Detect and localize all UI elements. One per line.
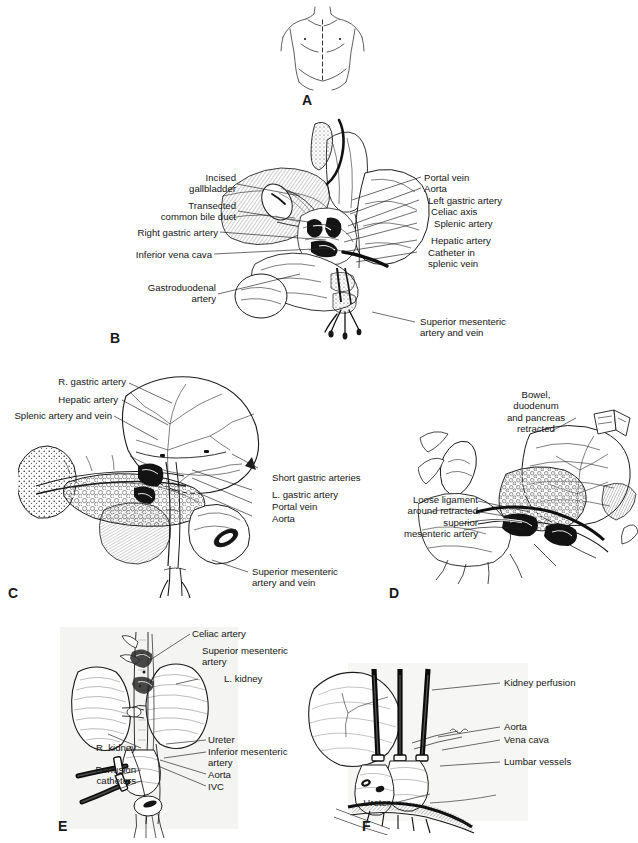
panel-a-artwork <box>268 6 378 92</box>
panel-b-artwork <box>215 118 445 343</box>
label-hepatic-artery-c: Hepatic artery <box>22 394 118 405</box>
label-loose-ligament-sma: Loose ligament around retracted superior… <box>368 494 478 540</box>
label-bowel-duodenum-pancreas-retracted: Bowel, duodenum and pancreas retracted <box>480 389 592 435</box>
label-gastroduodenal-artery: Gastroduodenal artery <box>106 282 216 305</box>
label-ureter-e: Ureter <box>208 734 298 745</box>
label-lumbar-vessels: Lumbar vessels <box>504 756 614 767</box>
label-aorta: Aorta <box>424 183 544 194</box>
label-vena-cava: Vena cava <box>504 734 604 745</box>
panel-letter-a: A <box>302 92 313 108</box>
label-incised-gallbladder: Incised gallbladder <box>120 172 236 195</box>
label-l-kidney: L. kidney <box>224 673 304 684</box>
panel-letter-f: F <box>362 818 371 834</box>
label-ivc: IVC <box>208 781 298 792</box>
label-splenic-artery: Splenic artery <box>434 218 564 229</box>
panel-f <box>300 655 530 835</box>
panel-letter-e: E <box>58 818 68 834</box>
label-r-gastric-artery: R. gastric artery <box>22 376 126 387</box>
panel-letter-c: C <box>8 585 19 601</box>
label-superior-mesenteric-artery-and-vein-b: Superior mesenteric artery and vein <box>420 316 570 339</box>
label-kidney-perfusion: Kidney perfusion <box>504 677 624 688</box>
label-portal-vein: Portal vein <box>424 172 544 183</box>
label-splenic-artery-and-vein: Splenic artery and vein <box>4 410 112 421</box>
label-ureter-f: Ureter <box>340 797 390 808</box>
label-r-kidney: R. kidney <box>48 742 136 753</box>
label-aorta-f: Aorta <box>504 721 604 732</box>
panel-letter-b: B <box>110 330 121 346</box>
label-left-gastric-artery: Left gastric artery <box>428 195 578 206</box>
panel-f-artwork <box>300 655 530 835</box>
label-short-gastric-arteries: Short gastric arteries <box>272 472 402 483</box>
panel-letter-d: D <box>389 585 400 601</box>
label-transected-common-bile-duct: Transected common bile duct <box>80 200 236 223</box>
label-aorta-e: Aorta <box>208 769 298 780</box>
label-superior-mesenteric-artery-and-vein-c: Superior mesenteric artery and vein <box>252 566 402 589</box>
label-inferior-vena-cava: Inferior vena cava <box>96 249 212 260</box>
label-perfusion-catheters: Perfusion catheters <box>42 764 136 787</box>
label-celiac-artery: Celiac artery <box>192 628 302 639</box>
surgical-figure: A <box>0 0 638 843</box>
label-hepatic-artery: Hepatic artery <box>431 235 561 246</box>
panel-b <box>215 118 445 343</box>
label-celiac-axis: Celiac axis <box>431 206 561 217</box>
panel-a <box>268 6 378 92</box>
label-right-gastric-artery: Right gastric artery <box>100 227 218 238</box>
label-catheter-in-splenic-vein: Catheter in splenic vein <box>428 247 558 270</box>
